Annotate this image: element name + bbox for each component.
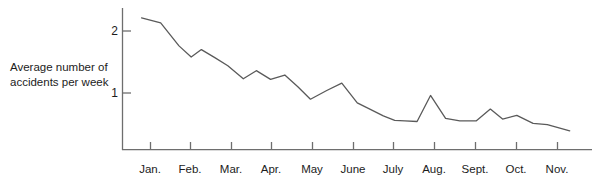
line-chart: Average number of accidents per week 2 1…	[0, 0, 598, 183]
x-axis-ticks	[151, 142, 558, 150]
y-axis-ticks	[123, 31, 132, 93]
plot-area	[0, 0, 598, 183]
data-series-line	[142, 18, 570, 131]
